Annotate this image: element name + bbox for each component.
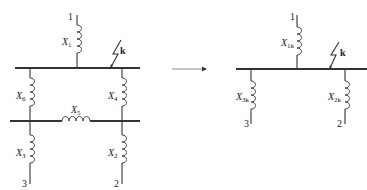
svg-text:k: k xyxy=(340,47,346,58)
reactance-x2k: X2k 2 xyxy=(327,69,350,129)
reactance-x1: 1 X1 xyxy=(61,11,82,68)
svg-text:X5: X5 xyxy=(70,104,81,117)
svg-text:X3: X3 xyxy=(15,147,26,160)
svg-text:X1: X1 xyxy=(61,36,72,49)
svg-text:X4: X4 xyxy=(107,90,118,103)
svg-text:X2: X2 xyxy=(107,147,118,160)
reactance-x4: X4 xyxy=(107,68,127,121)
svg-text:X6: X6 xyxy=(15,90,26,103)
reactance-x1k: 1 X1k xyxy=(280,11,302,69)
source-label-1: 1 xyxy=(68,11,73,22)
reactance-x3: X3 3 xyxy=(15,121,35,189)
terminal-2-left: 2 xyxy=(114,178,119,189)
svg-text:X3k: X3k xyxy=(235,91,250,104)
reactance-x5: X5 xyxy=(62,104,90,121)
circuit-transformation-diagram: 1 X1 k X6 X4 X5 xyxy=(0,0,367,190)
left-network: 1 X1 k X6 X4 X5 xyxy=(10,11,140,189)
terminal-3-left: 3 xyxy=(22,178,27,189)
reactance-x3k: X3k 3 xyxy=(235,69,256,129)
svg-text:X1k: X1k xyxy=(280,37,295,50)
svg-text:k: k xyxy=(120,45,126,56)
fault-k-left: k xyxy=(110,40,126,68)
source-label-1-right: 1 xyxy=(290,11,295,22)
terminal-2-right: 2 xyxy=(337,118,342,129)
reactance-x2: X2 2 xyxy=(107,121,127,189)
transform-arrow xyxy=(172,67,207,72)
svg-text:X2k: X2k xyxy=(327,91,342,104)
right-network: 1 X1k k X3k 3 X2k 2 xyxy=(235,11,367,129)
reactance-x6: X6 xyxy=(15,68,35,121)
terminal-3-right: 3 xyxy=(244,118,249,129)
fault-k-right: k xyxy=(329,42,346,69)
